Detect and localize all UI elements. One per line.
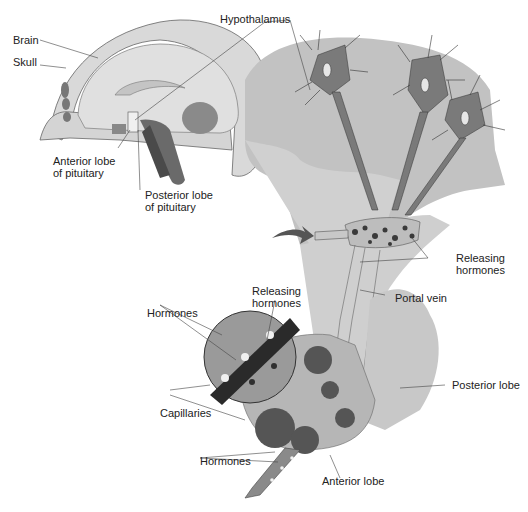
label-posterior-lobe: Posterior lobe bbox=[452, 379, 520, 391]
hypothalamus-tissue bbox=[245, 30, 505, 245]
label-releasing-hormones-line1: Releasing bbox=[456, 252, 505, 264]
label-anterior-lobe-pituitary-line1: Anterior lobe bbox=[53, 155, 115, 167]
label-skull: Skull bbox=[13, 56, 37, 68]
label-anterior-lobe: Anterior lobe bbox=[322, 475, 384, 487]
label-releasing-hormones-inset-line1: Releasing bbox=[252, 285, 301, 297]
label-hormones-inset: Hormones bbox=[147, 307, 198, 319]
label-hypothalamus: Hypothalamus bbox=[220, 13, 290, 25]
label-portal-vein: Portal vein bbox=[395, 292, 447, 304]
label-posterior-lobe-pituitary-line2: of pituitary bbox=[145, 201, 196, 213]
label-capillaries: Capillaries bbox=[160, 407, 211, 419]
label-brain: Brain bbox=[13, 34, 39, 46]
label-posterior-lobe-pituitary-line1: Posterior lobe bbox=[145, 189, 213, 201]
label-releasing-hormones-inset-line2: hormones bbox=[252, 297, 301, 309]
anatomy-diagram bbox=[0, 0, 528, 512]
label-releasing-hormones-line2: hormones bbox=[456, 264, 505, 276]
label-hormones-bottom: Hormones bbox=[200, 455, 251, 467]
label-anterior-lobe-pituitary-line2: of pituitary bbox=[53, 167, 104, 179]
